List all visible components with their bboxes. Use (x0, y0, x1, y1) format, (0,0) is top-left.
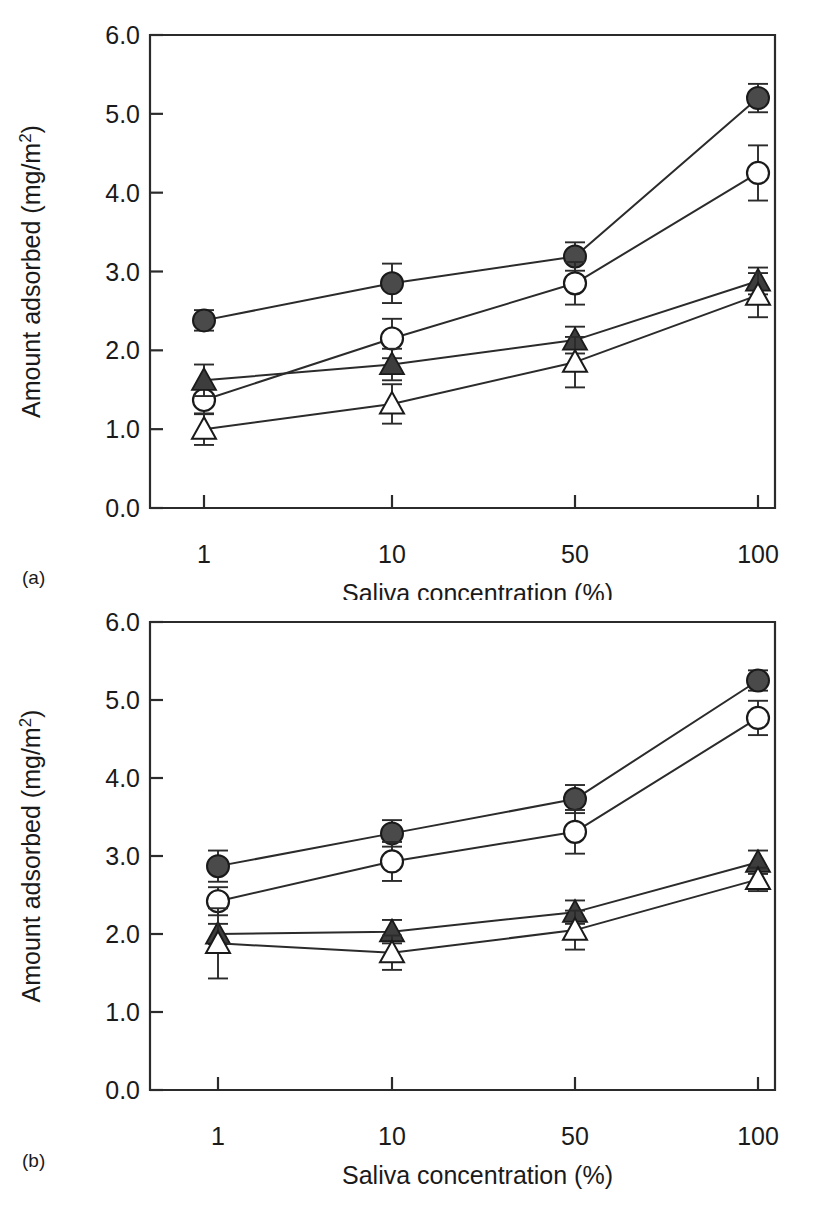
data-point-open-circle (564, 272, 586, 294)
plot-frame (150, 35, 775, 508)
x-tick-label-50: 50 (561, 1122, 589, 1150)
y-axis-title: Amount adsorbed (mg/m2) (16, 710, 45, 1003)
data-point-filled-circle (747, 87, 769, 109)
panel-b: 6.05.04.03.02.01.00.011050100Saliva conc… (0, 600, 827, 1205)
y-tick-label-3: 3.0 (105, 842, 140, 870)
x-tick-label-100: 100 (737, 1122, 779, 1150)
y-tick-label-0: 0.0 (105, 1076, 140, 1104)
y-tick-label-4: 4.0 (105, 764, 140, 792)
data-point-filled-circle (747, 670, 769, 692)
y-tick-label-6: 6.0 (105, 608, 140, 636)
y-tick-label-6: 6.0 (105, 21, 140, 49)
data-point-open-circle (381, 850, 403, 872)
series-line-open-triangle (218, 879, 758, 952)
x-tick-label-10: 10 (378, 1122, 406, 1150)
panel-a: 6.05.04.03.02.01.00.011050100Saliva conc… (0, 0, 827, 600)
x-axis-title: Saliva concentration (%) (342, 1161, 613, 1189)
x-tick-label-100: 100 (737, 540, 779, 568)
series-filled-triangle (192, 268, 770, 396)
x-tick-label-10: 10 (378, 540, 406, 568)
series-filled-circle (193, 84, 769, 332)
chart-b-plot: 6.05.04.03.02.01.00.011050100Saliva conc… (0, 600, 827, 1205)
series-line-filled-circle (218, 681, 758, 867)
data-point-filled-circle (193, 309, 215, 331)
series-line-open-triangle (204, 295, 758, 429)
series-filled-circle (207, 670, 769, 882)
data-point-filled-circle (207, 855, 229, 877)
y-tick-label-5: 5.0 (105, 100, 140, 128)
series-filled-triangle (206, 850, 770, 944)
series-line-open-circle (218, 718, 758, 901)
series-line-filled-circle (204, 98, 758, 320)
y-tick-label-0: 0.0 (105, 494, 140, 522)
data-point-open-circle (381, 328, 403, 350)
x-tick-label-1: 1 (197, 540, 211, 568)
series-line-filled-triangle (218, 862, 758, 934)
y-tick-label-4: 4.0 (105, 179, 140, 207)
series-open-triangle (192, 273, 770, 445)
y-tick-label-2: 2.0 (105, 920, 140, 948)
y-axis-title: Amount adsorbed (mg/m2) (16, 125, 45, 418)
y-tick-label-2: 2.0 (105, 336, 140, 364)
data-point-open-circle (747, 162, 769, 184)
figure-container: 6.05.04.03.02.01.00.011050100Saliva conc… (0, 0, 827, 1205)
panel-label-a: (a) (22, 567, 45, 588)
y-tick-label-1: 1.0 (105, 998, 140, 1026)
data-point-filled-circle (381, 272, 403, 294)
y-tick-label-5: 5.0 (105, 686, 140, 714)
series-line-filled-triangle (204, 281, 758, 380)
y-axis-title-group: Amount adsorbed (mg/m2) (16, 125, 45, 418)
chart-a-plot: 6.05.04.03.02.01.00.011050100Saliva conc… (0, 0, 827, 600)
data-point-filled-circle (564, 788, 586, 810)
x-tick-label-1: 1 (211, 1122, 225, 1150)
x-tick-label-50: 50 (561, 540, 589, 568)
panel-label-b: (b) (22, 1150, 45, 1171)
series-line-open-circle (204, 173, 758, 400)
y-tick-label-1: 1.0 (105, 415, 140, 443)
data-point-open-circle (747, 707, 769, 729)
y-tick-label-3: 3.0 (105, 258, 140, 286)
data-point-open-circle (564, 821, 586, 843)
y-axis-title-group: Amount adsorbed (mg/m2) (16, 710, 45, 1003)
plot-frame (150, 622, 775, 1090)
x-axis-title: Saliva concentration (%) (342, 579, 613, 600)
